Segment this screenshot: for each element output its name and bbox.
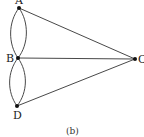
node-c — [133, 57, 137, 61]
node-label-b: B — [6, 52, 14, 65]
edge-a-b-left — [11, 8, 19, 58]
node-label-d: D — [13, 109, 22, 122]
node-b — [16, 56, 20, 60]
edge-d-c — [17, 59, 135, 106]
edge-b-d-left — [10, 58, 18, 106]
edge-b-d-right — [17, 58, 25, 106]
edge-a-c — [19, 8, 135, 59]
edge-a-b-right — [18, 8, 26, 58]
node-label-a: A — [14, 0, 24, 7]
graph-diagram: A B C D (b) — [0, 0, 144, 137]
edge-b-c — [18, 58, 135, 59]
figure-caption: (b) — [66, 126, 79, 136]
node-label-c: C — [138, 53, 144, 66]
node-d — [15, 104, 19, 108]
